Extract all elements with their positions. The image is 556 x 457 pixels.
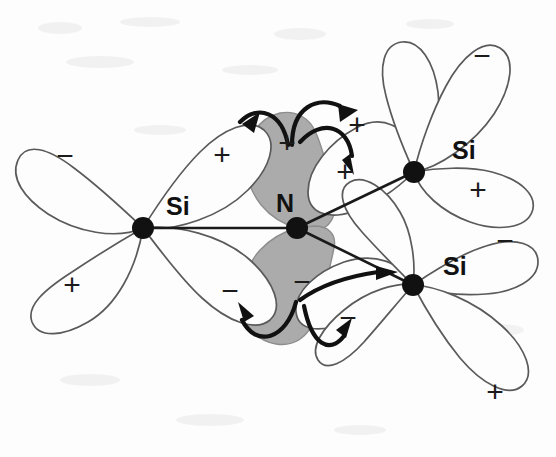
sign-left-si-lower-left: +	[63, 268, 81, 301]
orbital-diagram-canvas: Si N Si Si − + + − + − + + − − + − +	[0, 0, 556, 457]
atom-dot-si-left	[132, 217, 154, 239]
sign-si-lr-toward-n: −	[339, 301, 357, 334]
atom-label-si-left: Si	[166, 192, 190, 220]
sign-si-lr-right-lobe: −	[496, 224, 514, 257]
sign-left-si-upper-right: +	[213, 138, 231, 171]
sign-left-si-lower-right: −	[221, 274, 239, 307]
atom-dot-si-upper-right	[403, 161, 425, 183]
atom-label-nitrogen: N	[276, 189, 294, 217]
sign-si-lr-bottom-lobe: +	[486, 375, 504, 408]
sign-n-upper-lobe: +	[278, 126, 296, 159]
atom-label-si-lower-right: Si	[443, 252, 467, 280]
atom-dot-nitrogen	[286, 217, 308, 239]
orbital-diagram-figure: Si N Si Si − + + − + − + + − − + − +	[0, 0, 556, 457]
sign-left-si-upper-left: −	[56, 139, 74, 172]
sign-n-lower-lobe: −	[293, 265, 311, 298]
sign-si-ur-top-lobe: −	[473, 39, 491, 72]
sign-si-ur-upper: +	[348, 108, 366, 141]
atom-label-si-upper-right: Si	[452, 136, 476, 164]
atom-dot-si-lower-right	[402, 274, 424, 296]
sign-si-ur-toward-n: +	[336, 155, 354, 188]
sign-si-ur-right-lobe: +	[469, 173, 487, 206]
